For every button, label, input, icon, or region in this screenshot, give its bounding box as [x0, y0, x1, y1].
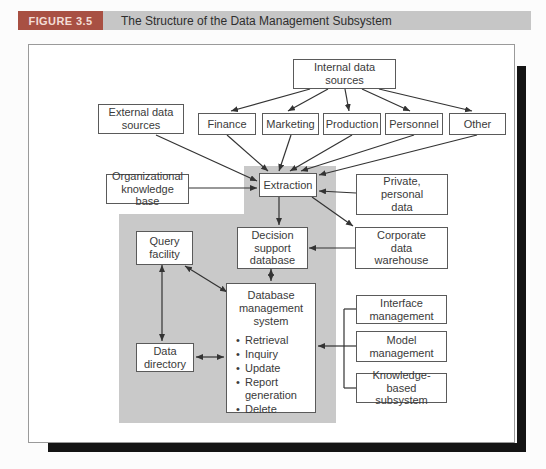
- label-line: knowledge base: [108, 183, 187, 209]
- label-line: Database: [239, 289, 303, 302]
- label-line: warehouse: [375, 254, 429, 267]
- arrow-internal-to-finance: [231, 89, 310, 111]
- diagram-panel: Internal data sources External data sour…: [28, 44, 515, 443]
- label-line: management: [239, 302, 303, 315]
- label-line: Production: [326, 118, 379, 131]
- dbms-function-item: Report generation: [236, 376, 314, 402]
- node-marketing: Marketing: [262, 113, 319, 135]
- label-line: Corporate: [377, 229, 426, 242]
- label-line: database: [250, 254, 295, 267]
- arrow-internal-to-personnel: [362, 89, 410, 111]
- label-line: Data: [153, 345, 176, 358]
- label-line: management: [369, 310, 433, 323]
- node-decision-support-database: Decision support database: [237, 227, 308, 269]
- label-line: Finance: [207, 118, 246, 131]
- label-line: Interface: [380, 297, 423, 310]
- label-line: data: [391, 201, 412, 214]
- label-line: directory: [144, 358, 186, 371]
- label-line: Decision: [251, 229, 293, 242]
- figure-header: FIGURE 3.5 The Structure of the Data Man…: [18, 11, 531, 30]
- label-line: data: [391, 242, 412, 255]
- arrow-internal-to-production: [345, 89, 349, 111]
- node-knowledge-based-subsystem: Knowledge-based subsystem: [356, 373, 447, 403]
- label-line: sources: [122, 119, 161, 132]
- dbms-function-list: Retrieval Inquiry Update Report generati…: [228, 334, 314, 417]
- page: { "header": { "figure_label": "FIGURE 3.…: [0, 0, 546, 469]
- node-private-personal-data: Private, personal data: [356, 174, 448, 215]
- node-model-management: Model management: [356, 331, 447, 362]
- label-line: Knowledge-based: [358, 369, 445, 395]
- node-finance: Finance: [198, 113, 256, 135]
- node-database-management-system: Database management system Retrieval Inq…: [226, 283, 316, 413]
- dbms-title: Database management system: [239, 289, 303, 328]
- label-line: Other: [464, 118, 492, 131]
- arrow-marketing-to-extraction: [279, 135, 291, 171]
- label-line: personal: [381, 188, 423, 201]
- label-line: sources: [325, 74, 364, 87]
- label-line: Extraction: [264, 179, 313, 192]
- label-line: External data: [109, 106, 174, 119]
- node-data-directory: Data directory: [136, 343, 194, 372]
- arrow-internal-to-marketing: [288, 89, 328, 111]
- label-line: Query: [150, 235, 180, 248]
- label-line: facility: [149, 248, 180, 261]
- figure-title: The Structure of the Data Management Sub…: [103, 11, 531, 30]
- node-external-data-sources: External data sources: [98, 104, 184, 134]
- label-line: Internal data: [314, 61, 375, 74]
- node-corporate-data-warehouse: Corporate data warehouse: [355, 227, 448, 269]
- node-query-facility: Query facility: [136, 231, 193, 265]
- label-line: subsystem: [375, 394, 428, 407]
- node-personnel: Personnel: [385, 113, 443, 135]
- dbms-function-item: Inquiry: [236, 348, 314, 361]
- node-internal-data-sources: Internal data sources: [293, 59, 396, 89]
- panel-shadow-bottom: [48, 443, 526, 452]
- panel-shadow-right: [517, 66, 526, 451]
- label-line: Marketing: [266, 118, 314, 131]
- dbms-function-item: Delete: [236, 403, 314, 416]
- node-production: Production: [323, 113, 381, 135]
- label-line: management: [369, 347, 433, 360]
- node-extraction: Extraction: [259, 173, 317, 197]
- dbms-function-item: Update: [236, 362, 314, 375]
- arrow-finance-to-extraction: [227, 135, 268, 171]
- label-line: system: [239, 315, 303, 328]
- dbms-function-item: Retrieval: [236, 334, 314, 347]
- node-interface-management: Interface management: [356, 295, 447, 324]
- arrow-production-to-extraction: [290, 135, 352, 171]
- node-organizational-knowledge-base: Organizational knowledge base: [106, 174, 189, 204]
- figure-number-label: FIGURE 3.5: [18, 11, 103, 30]
- label-line: Organizational: [112, 170, 183, 183]
- label-line: Model: [387, 334, 417, 347]
- arrow-internal-to-other: [379, 89, 472, 111]
- label-line: Personnel: [389, 118, 439, 131]
- label-line: support: [254, 242, 291, 255]
- node-other: Other: [449, 113, 506, 135]
- label-line: Private,: [383, 175, 420, 188]
